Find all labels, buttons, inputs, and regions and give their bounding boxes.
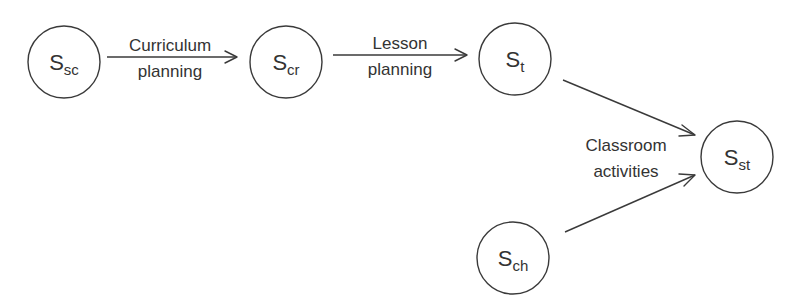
- node-s-st: Sst: [701, 121, 773, 193]
- node-s-ch: Sch: [477, 222, 549, 294]
- node-s-sc: Ssc: [28, 26, 100, 98]
- arrow-line: [563, 80, 695, 135]
- edge-teacher-to-student: [563, 80, 695, 136]
- edge-label-top: Classroom: [585, 136, 666, 155]
- classroom-activities-label: Classroom activities: [585, 136, 666, 181]
- node-s-cr: Scr: [250, 26, 322, 98]
- edge-curriculum-planning: Curriculum planning: [107, 36, 237, 81]
- edge-label-bottom: planning: [138, 62, 202, 81]
- node-s-t: St: [479, 23, 551, 95]
- education-flow-diagram: Curriculum planning Lesson planning Clas…: [0, 0, 802, 308]
- edge-lesson-planning: Lesson planning: [333, 34, 467, 79]
- edge-label-top: Lesson: [373, 34, 428, 53]
- edge-label-bottom: activities: [593, 162, 658, 181]
- edge-label-top: Curriculum: [129, 36, 211, 55]
- edge-child-to-student: [565, 174, 695, 232]
- edge-label-bottom: planning: [368, 60, 432, 79]
- arrow-line: [565, 175, 695, 232]
